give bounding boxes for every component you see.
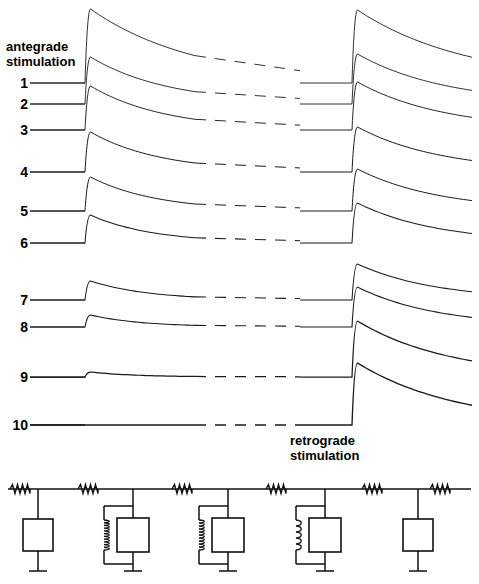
circuit-branch-1 — [23, 489, 53, 571]
circuit-element-box-4 — [309, 518, 341, 552]
figure-panel: antegrade stimulation retrograde stimula… — [0, 0, 479, 584]
equivalent-circuit-diagram — [0, 0, 479, 584]
circuit-branch-4 — [296, 489, 341, 571]
circuit-element-box-1 — [23, 519, 53, 551]
circuit-branch-3 — [199, 489, 244, 571]
circuit-element-box-2 — [117, 518, 149, 552]
circuit-branch-2 — [104, 489, 149, 571]
circuit-coil-4 — [296, 520, 301, 550]
circuit-branch-5 — [403, 489, 433, 571]
circuit-coil-2 — [104, 520, 109, 550]
circuit-coil-3 — [199, 520, 204, 550]
circuit-element-box-3 — [212, 518, 244, 552]
circuit-element-box-5 — [403, 519, 433, 551]
